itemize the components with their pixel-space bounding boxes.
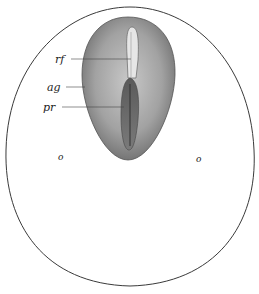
embryo-diagram: rf ag pr o o [0, 0, 259, 294]
label-o-right: o [196, 154, 202, 164]
label-rf: rf [55, 53, 66, 66]
label-pr: pr [43, 101, 56, 114]
label-o-left: o [58, 152, 64, 162]
label-ag: ag [47, 81, 61, 94]
neural-folds [127, 27, 139, 78]
